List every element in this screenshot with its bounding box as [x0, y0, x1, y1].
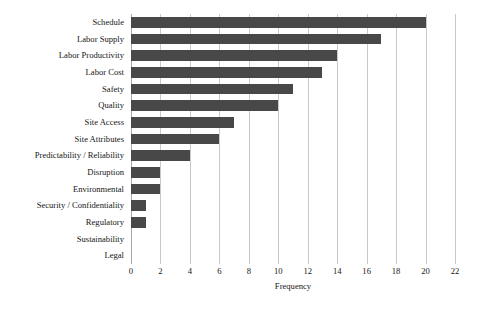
category-label: Site Attributes	[75, 131, 124, 148]
bar	[131, 217, 146, 228]
bar-row	[131, 181, 455, 198]
bar-series	[131, 14, 455, 264]
bar	[131, 17, 426, 28]
bar-row	[131, 147, 455, 164]
x-tick-label: 2	[158, 265, 162, 277]
bar-row	[131, 81, 455, 98]
x-tick-label: 10	[274, 265, 283, 277]
x-axis-tick-labels: 0246810121416182022	[131, 265, 455, 279]
x-tick-label: 16	[362, 265, 371, 277]
category-label: Regulatory	[86, 214, 124, 231]
bar	[131, 50, 337, 61]
x-tick-label: 14	[333, 265, 342, 277]
plot-area	[131, 14, 455, 264]
x-tick-label: 8	[247, 265, 251, 277]
bar	[131, 34, 381, 45]
bar-row	[131, 14, 455, 31]
category-label: Environmental	[73, 181, 124, 198]
x-tick-label: 20	[421, 265, 430, 277]
bar-row	[131, 247, 455, 264]
x-tick-label: 4	[188, 265, 192, 277]
bar	[131, 150, 190, 161]
category-label: Site Access	[85, 114, 124, 131]
bar-row	[131, 64, 455, 81]
bar	[131, 200, 146, 211]
x-axis-title: Frequency	[131, 281, 455, 291]
category-label: Labor Productivity	[59, 47, 124, 64]
x-tick-label: 12	[303, 265, 312, 277]
bar-chart: ScheduleLabor SupplyLabor ProductivityLa…	[0, 0, 477, 310]
bar-row	[131, 231, 455, 248]
gridline-22	[455, 14, 456, 264]
category-label: Predictability / Reliability	[35, 147, 124, 164]
bar	[131, 117, 234, 128]
category-label: Labor Cost	[86, 64, 124, 81]
category-axis: ScheduleLabor SupplyLabor ProductivityLa…	[0, 14, 128, 264]
bar	[131, 134, 219, 145]
x-tick-label: 18	[392, 265, 401, 277]
x-tick-label: 0	[129, 265, 133, 277]
bar	[131, 67, 322, 78]
category-label: Disruption	[87, 164, 124, 181]
bar	[131, 167, 160, 178]
bar	[131, 184, 160, 195]
category-label: Safety	[102, 81, 124, 98]
category-label: Security / Confidentiality	[37, 197, 124, 214]
bar-row	[131, 214, 455, 231]
bar	[131, 100, 278, 111]
bar-row	[131, 47, 455, 64]
x-tick-label: 6	[217, 265, 221, 277]
x-tick-label: 22	[451, 265, 460, 277]
bar-row	[131, 114, 455, 131]
bar-row	[131, 97, 455, 114]
bar-row	[131, 197, 455, 214]
bar	[131, 84, 293, 95]
bar-row	[131, 164, 455, 181]
bar-row	[131, 131, 455, 148]
bar-row	[131, 31, 455, 48]
category-label: Schedule	[92, 14, 124, 31]
category-label: Sustainability	[77, 231, 124, 248]
category-label: Quality	[98, 97, 124, 114]
category-label: Legal	[104, 247, 124, 264]
category-label: Labor Supply	[77, 31, 124, 48]
